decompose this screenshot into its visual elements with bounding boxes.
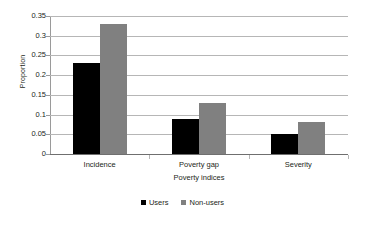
- bar-non-users-incidence: [100, 24, 127, 154]
- bar-users-severity: [271, 134, 298, 154]
- y-axis-tick-label: 0.2: [14, 71, 46, 79]
- y-axis-tickmark: [46, 95, 50, 96]
- y-axis-tick-label: 0.1: [14, 111, 46, 119]
- chart-legend: UsersNon-users: [0, 198, 365, 207]
- x-axis-category-label: Poverty gap: [149, 160, 248, 169]
- y-axis-tick-label: 0.05: [14, 130, 46, 138]
- bar-non-users-poverty-gap: [199, 103, 226, 154]
- y-axis-tickmark: [46, 134, 50, 135]
- y-axis-tickmark: [46, 154, 50, 155]
- y-axis-tick-label: 0: [14, 150, 46, 158]
- y-axis-tick-labels: 00.050.10.150.20.250.30.35: [14, 0, 46, 225]
- bar-users-poverty-gap: [172, 119, 199, 154]
- y-axis-tickmark: [46, 16, 50, 17]
- bar-non-users-severity: [298, 122, 325, 154]
- x-axis-title: Poverty indices: [50, 173, 348, 182]
- x-axis-category-label: Incidence: [50, 160, 149, 169]
- legend-label: Non-users: [189, 198, 224, 207]
- legend-swatch-icon: [141, 200, 146, 205]
- y-axis-tick-label: 0.25: [14, 51, 46, 59]
- y-axis-tick-label: 0.35: [14, 12, 46, 20]
- x-axis-separator-tick: [149, 155, 150, 159]
- x-axis-category-label: Severity: [249, 160, 348, 169]
- y-axis-tickmark: [46, 75, 50, 76]
- bar-chart: Proportion 00.050.10.150.20.250.30.35 In…: [0, 0, 365, 225]
- x-axis-separator-tick: [348, 155, 349, 159]
- bar-users-incidence: [73, 63, 100, 154]
- y-axis-tick-label: 0.15: [14, 91, 46, 99]
- y-axis-tickmark: [46, 55, 50, 56]
- y-axis-tickmark: [46, 36, 50, 37]
- legend-item-users: Users: [141, 198, 169, 207]
- bars-layer: [50, 16, 348, 154]
- legend-item-non-users: Non-users: [181, 198, 224, 207]
- x-axis-separator-tick: [249, 155, 250, 159]
- x-axis-line: [50, 154, 348, 155]
- y-axis-tick-label: 0.3: [14, 32, 46, 40]
- legend-label: Users: [149, 198, 169, 207]
- legend-swatch-icon: [181, 200, 186, 205]
- y-axis-tickmark: [46, 115, 50, 116]
